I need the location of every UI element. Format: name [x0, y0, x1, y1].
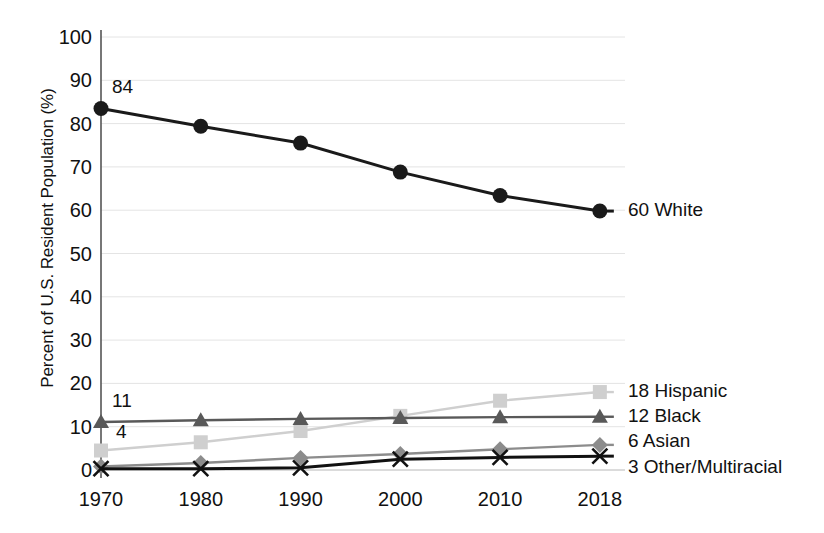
x-axis-tick: 1990 [278, 488, 323, 511]
series-label-hispanic: 18 Hispanic [628, 381, 727, 401]
data-label-hispanic-start: 4 [116, 421, 127, 443]
data-point-marker [293, 136, 308, 151]
data-point-marker [93, 459, 109, 475]
data-point-marker [493, 394, 507, 408]
data-point-marker [94, 444, 108, 458]
data-point-marker [194, 435, 208, 449]
data-label-white-start: 84 [112, 76, 133, 98]
x-axis-tick: 2018 [578, 488, 623, 511]
x-axis-tick: 2000 [378, 488, 423, 511]
series-label-other-multiracial: 3 Other/Multiracial [628, 457, 782, 477]
data-point-marker [492, 441, 508, 457]
data-label-black-start: 11 [112, 390, 132, 412]
data-point-marker [193, 119, 208, 134]
series-label-black: 12 Black [628, 406, 701, 426]
data-point-marker [294, 424, 308, 438]
series-line [101, 456, 600, 469]
data-point-marker [393, 165, 408, 180]
series-line [101, 417, 600, 422]
x-axis-tick: 1980 [179, 488, 224, 511]
x-axis-tick: 1970 [79, 488, 124, 511]
data-point-marker [94, 101, 109, 116]
x-axis-tick: 2010 [478, 488, 523, 511]
data-point-marker [493, 188, 508, 203]
series-label-asian: 6 Asian [628, 431, 690, 451]
chart-container: Percent of U.S. Resident Population (%) … [0, 0, 824, 533]
series-label-white: 60 White [628, 200, 703, 220]
